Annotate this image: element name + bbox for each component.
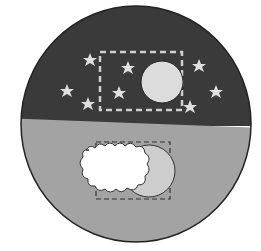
- day-night-illustration: [0, 0, 261, 251]
- cloud-icon: [80, 143, 149, 192]
- night-half: [0, 0, 261, 126]
- moon-icon: [141, 61, 183, 103]
